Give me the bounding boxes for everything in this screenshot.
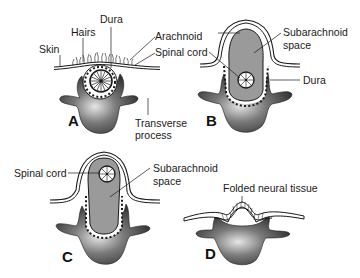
panel-letter-d: D (205, 245, 216, 262)
label-dura-a: Dura (100, 14, 123, 25)
label-transverse-process-1: Transverse (135, 118, 187, 129)
panel-letter-b: B (206, 112, 217, 129)
label-folded-neural-tissue: Folded neural tissue (223, 183, 318, 194)
label-subarachnoid-b-2: space (283, 40, 311, 51)
folded-neural-tissue-d (184, 202, 304, 221)
label-subarachnoid-b-1: Subarachnoid (283, 27, 348, 38)
label-spinal-cord-c: Spinal cord (14, 168, 67, 179)
label-subarachnoid-c-2: space (153, 176, 181, 187)
panel-d (184, 196, 304, 265)
panel-letter-a: A (68, 112, 79, 129)
label-transverse-process-2: process (135, 130, 172, 141)
label-spinal-cord-a: Spinal cord (155, 47, 208, 58)
label-dura-b: Dura (303, 75, 326, 86)
panel-letter-c: C (62, 248, 73, 265)
label-subarachnoid-c-1: Subarachnoid (153, 163, 218, 174)
label-arachnoid: Arachnoid (155, 31, 202, 42)
subarachnoid-space-b (229, 29, 263, 101)
label-skin: Skin (39, 44, 59, 55)
label-hairs: Hairs (71, 27, 96, 38)
